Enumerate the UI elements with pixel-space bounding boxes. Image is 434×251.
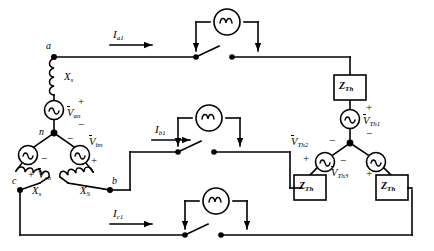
ac-meter-icon-a bbox=[214, 9, 240, 35]
phase-a-line bbox=[54, 57, 350, 75]
breaker-c-contact-right bbox=[218, 232, 224, 238]
vth3-subscript: Th3 bbox=[337, 172, 348, 180]
reactance-label-xs-b: XS bbox=[80, 186, 90, 197]
reactance-xs-b-coil bbox=[60, 167, 93, 177]
thevenin-neutral-dot bbox=[347, 140, 354, 147]
xs-b-subscript: S bbox=[86, 190, 90, 198]
vth1-minus-sign: − bbox=[366, 128, 372, 139]
zth1-subscript: Th bbox=[345, 85, 353, 93]
voltage-label-vcn: Vcn bbox=[38, 170, 51, 181]
node-label-n: n bbox=[39, 127, 44, 137]
xs-a-subscript: s bbox=[70, 76, 73, 84]
impedance-label-zth3: ZTh bbox=[381, 181, 395, 191]
voltage-label-vbn: Vbn bbox=[89, 137, 102, 148]
ia1-subscript: a1 bbox=[117, 34, 124, 42]
node-label-a: a bbox=[46, 41, 51, 51]
zth2-subscript: Th bbox=[305, 185, 313, 193]
ic1-subscript: c1 bbox=[117, 213, 124, 221]
vbn-plus-sign: + bbox=[91, 155, 97, 166]
node-a-dot bbox=[51, 54, 57, 60]
phase-b-line bbox=[110, 152, 302, 190]
breaker-b-contact-left bbox=[175, 149, 181, 155]
reactance-xs-a-coil bbox=[50, 58, 55, 95]
current-label-ib1: Ib1 bbox=[155, 124, 166, 135]
node-label-b: b bbox=[112, 176, 117, 186]
vth2-minus-sign: − bbox=[329, 135, 335, 146]
xs-c-subscript: s bbox=[38, 190, 41, 198]
vcn-minus-sign: − bbox=[41, 153, 47, 164]
breaker-a-contact-right bbox=[229, 54, 235, 60]
ib1-subscript: b1 bbox=[159, 129, 166, 137]
node-label-c: c bbox=[12, 176, 16, 186]
vth1-plus-sign: + bbox=[366, 102, 372, 113]
voltage-label-vth3: VTh3 bbox=[331, 168, 348, 179]
ac-meter-icon-b bbox=[196, 105, 222, 131]
reactance-label-xs-a: Xs bbox=[64, 72, 73, 83]
vcn-subscript: cn bbox=[44, 174, 51, 182]
ac-meter-icon-c bbox=[203, 188, 229, 214]
vth2-plus-sign: + bbox=[303, 153, 309, 164]
node-n-dot bbox=[51, 130, 58, 137]
vth3-minus-sign: − bbox=[340, 155, 346, 166]
vbn-minus-sign: − bbox=[67, 133, 73, 144]
vth3-plus-sign: + bbox=[366, 168, 372, 179]
current-label-ic1: Ic1 bbox=[113, 208, 123, 219]
impedance-label-zth1: ZTh bbox=[339, 81, 353, 91]
breaker-a-contact-left bbox=[193, 54, 199, 60]
van-minus-sign: − bbox=[78, 119, 84, 130]
van-plus-sign: + bbox=[78, 96, 84, 107]
circuit-diagram-figure: a b c n Xs XS Xs Van + − Vbn + − Vcn + −… bbox=[0, 0, 434, 251]
voltage-label-vth2: VTh2 bbox=[291, 137, 308, 148]
vth2-subscript: Th2 bbox=[297, 141, 308, 149]
breaker-c-contact-left bbox=[182, 232, 188, 238]
vcn-plus-sign: + bbox=[28, 169, 34, 180]
voltage-label-van: Van bbox=[67, 108, 80, 119]
vbn-subscript: bn bbox=[95, 141, 102, 149]
breaker-b-contact-right bbox=[211, 149, 217, 155]
voltage-label-vth1: VTh1 bbox=[363, 116, 380, 127]
impedance-label-zth2: ZTh bbox=[299, 181, 313, 191]
zth3-subscript: Th bbox=[387, 185, 395, 193]
current-label-ia1: Ia1 bbox=[113, 29, 124, 40]
reactance-label-xs-c: Xs bbox=[32, 186, 41, 197]
